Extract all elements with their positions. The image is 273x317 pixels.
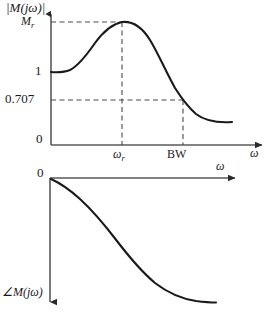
- phase-origin-label: 0: [37, 166, 44, 179]
- magnitude-axis-label: |M(jω)|: [6, 1, 45, 14]
- magnitude-omega-axis-label: ω: [250, 147, 258, 159]
- magnitude-plot: [51, 14, 262, 145]
- phase-plot: [50, 178, 235, 303]
- resonant-frequency-label: ωr: [113, 148, 125, 163]
- resonant-peak-symbol: M: [21, 14, 31, 28]
- figure-svg: [0, 0, 273, 317]
- magnitude-curve: [51, 22, 232, 122]
- phase-axis-label: ∠M(jω): [2, 286, 43, 298]
- phase-omega-axis-label: ω: [216, 160, 224, 172]
- half-power-tick-label: 0.707: [5, 92, 34, 105]
- phase-curve: [51, 179, 216, 303]
- magnitude-origin-label: 0: [36, 132, 43, 145]
- unity-tick-label: 1: [35, 64, 42, 77]
- resonant-frequency-subscript: r: [121, 153, 124, 163]
- bandwidth-label: BW: [167, 148, 186, 160]
- frequency-response-figure: |M(jω)| Mr 1 0.707 0 ωr BW ω ω 0 ∠M(jω): [0, 0, 273, 317]
- resonant-peak-label: Mr: [21, 15, 34, 30]
- resonant-peak-subscript: r: [31, 20, 34, 30]
